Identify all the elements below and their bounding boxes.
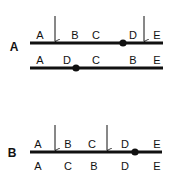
gene-label: B <box>129 54 136 66</box>
gene-label: B <box>64 138 71 150</box>
gene-label: B <box>71 29 78 41</box>
gene-label-below: A <box>34 160 42 172</box>
centromere-dot <box>72 64 79 71</box>
gene-label: D <box>121 138 129 150</box>
gene-label: C <box>88 138 96 150</box>
gene-label: E <box>153 138 160 150</box>
panel-label: B <box>8 146 17 160</box>
gene-label-below: C <box>64 160 72 172</box>
gene-label: E <box>153 29 160 41</box>
gene-label: A <box>36 29 44 41</box>
gene-label: D <box>63 54 71 66</box>
panel-label: A <box>10 40 19 54</box>
gene-label: A <box>36 54 44 66</box>
gene-label: D <box>129 29 137 41</box>
gene-label-below: B <box>90 160 97 172</box>
gene-label-below: E <box>153 160 160 172</box>
gene-label-below: D <box>121 160 129 172</box>
gene-label: C <box>92 29 100 41</box>
centromere-dot <box>119 39 126 46</box>
centromere-dot <box>131 148 138 155</box>
chromosome-diagram: AABCDEADCBEBABCDEACBDE <box>0 0 173 174</box>
gene-label: E <box>153 54 160 66</box>
gene-label: A <box>34 138 42 150</box>
gene-label: C <box>92 54 100 66</box>
